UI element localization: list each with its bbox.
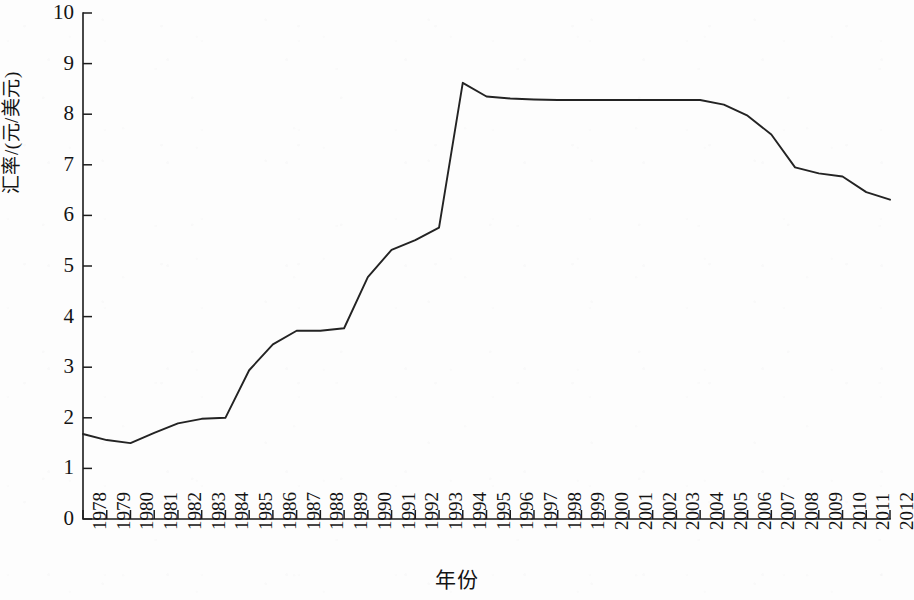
data-series-group [83,83,890,443]
axes [83,13,890,519]
x-tick-label: 1978 [90,492,109,530]
x-axis-title: 年份 [0,570,914,591]
x-tick-label: 2011 [873,493,892,530]
x-tick-label: 2009 [826,492,845,530]
x-tick-label: 1980 [137,492,156,530]
x-tick-label: 2010 [850,492,869,530]
x-tick-label: 2008 [802,492,821,530]
data-line-exchange-rate [83,83,890,443]
y-tick-label: 1 [24,457,74,478]
y-tick-label: 0 [24,508,74,529]
x-tick-label: 1990 [375,492,394,530]
x-tick-label: 1988 [327,492,346,530]
chart-figure: 012345678910 197819791980198119821983198… [0,0,914,600]
x-tick-label: 1985 [256,492,275,530]
x-tick-label: 1992 [422,492,441,530]
x-tick-label: 1996 [517,492,536,530]
x-tick-label: 1984 [232,492,251,530]
x-tick-label: 2002 [660,492,679,530]
x-tick-label: 2004 [707,492,726,530]
x-tick-label: 1994 [470,492,489,530]
x-tick-label: 2000 [612,492,631,530]
x-tick-label: 2012 [897,492,914,530]
x-tick-label: 2001 [636,492,655,530]
y-tick-label: 5 [24,255,74,276]
x-tick-label: 1993 [446,492,465,530]
x-tick-label: 1987 [304,492,323,530]
x-tick-label: 1986 [280,492,299,530]
axis-frame [83,13,890,519]
x-tick-label: 1982 [185,492,204,530]
x-tick-label: 2005 [731,492,750,530]
x-tick-label: 1981 [161,492,180,530]
x-tick-label: 2003 [683,492,702,530]
x-tick-label: 2007 [778,492,797,530]
x-tick-label: 1989 [351,492,370,530]
y-tick-label: 10 [24,2,74,23]
y-tick-label: 3 [24,356,74,377]
y-tick-label: 8 [24,103,74,124]
y-axis-ticks [83,13,92,519]
x-tick-label: 1983 [209,492,228,530]
y-tick-label: 7 [24,154,74,175]
x-tick-label: 2006 [755,492,774,530]
y-tick-label: 4 [24,306,74,327]
y-tick-label: 2 [24,407,74,428]
y-axis-title: 汇率/(元/美元) [2,168,21,194]
y-tick-label: 6 [24,204,74,225]
y-tick-label: 9 [24,53,74,74]
x-tick-label: 1998 [565,492,584,530]
x-tick-label: 1999 [588,492,607,530]
x-tick-label: 1979 [114,492,133,530]
x-tick-label: 1997 [541,492,560,530]
x-tick-label: 1995 [494,492,513,530]
x-tick-label: 1991 [399,492,418,530]
